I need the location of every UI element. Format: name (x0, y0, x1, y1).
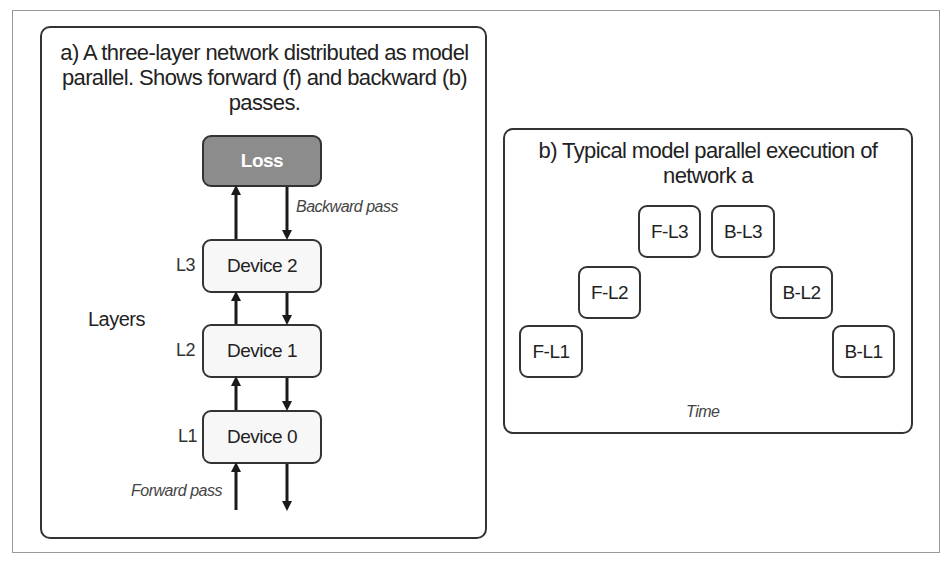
step-label: B-L3 (724, 221, 762, 243)
panel-b-title-line-1: b) Typical model parallel execution of (505, 138, 911, 163)
step-f-l2: F-L2 (578, 266, 641, 319)
panel-b-execution-timeline: b) Typical model parallel execution of n… (503, 128, 913, 434)
step-label: B-L1 (844, 341, 882, 363)
panel-b-title-line-2: network a (505, 163, 911, 188)
step-b-l2: B-L2 (770, 266, 833, 319)
step-label: F-L1 (532, 341, 569, 363)
step-label: B-L2 (782, 282, 820, 304)
time-axis-label: Time (686, 403, 719, 421)
step-f-l1: F-L1 (519, 325, 583, 378)
panel-b-title: b) Typical model parallel execution of n… (505, 138, 911, 188)
step-label: F-L3 (651, 221, 688, 243)
step-b-l3: B-L3 (711, 205, 775, 258)
step-b-l1: B-L1 (832, 325, 895, 378)
step-f-l3: F-L3 (638, 205, 701, 258)
step-label: F-L2 (591, 282, 628, 304)
